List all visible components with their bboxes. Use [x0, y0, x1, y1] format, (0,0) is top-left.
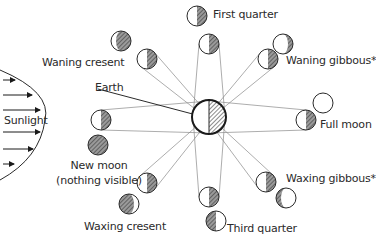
orbit-moon-top-right: [258, 49, 278, 69]
first-quarter-moon-icon: [187, 6, 207, 26]
orbit-moon-right: [296, 110, 316, 130]
orbit-moon-bottom-right: [256, 172, 276, 192]
full-moon-icon: [313, 93, 333, 113]
waning-cresent-label: Waning cresent: [42, 57, 124, 69]
waning-cresent-moon-icon: [111, 31, 131, 51]
waning-gibbous-moon-icon: [273, 34, 293, 54]
orbit-moon-left: [91, 110, 111, 130]
earth-label: Earth: [95, 82, 124, 94]
new-moon-label: New moon: [53, 160, 145, 172]
third-quarter-moon-icon: [206, 211, 226, 231]
orbit-moon-top: [199, 34, 219, 54]
new-moon-sublabel: (nothing visible): [38, 175, 160, 187]
waning-gibbous-label: Waning gibbous*: [286, 55, 376, 67]
third-quarter-label: Third quarter: [227, 223, 297, 235]
new-moon-icon: [88, 135, 108, 155]
earth: [192, 100, 226, 134]
waxing-cresent-label: Waxing cresent: [84, 221, 166, 233]
first-quarter-label: First quarter: [213, 9, 278, 21]
waxing-gibbous-label: Waxing gibbous*: [286, 173, 376, 185]
waxing-gibbous-moon-icon: [276, 188, 296, 208]
waxing-cresent-moon-icon: [119, 194, 139, 214]
orbit-moon-bottom: [199, 187, 219, 207]
sunlight-label: Sunlight: [4, 115, 48, 127]
full-moon-label: Full moon: [320, 119, 372, 131]
orbit-moon-top-left: [137, 49, 157, 69]
